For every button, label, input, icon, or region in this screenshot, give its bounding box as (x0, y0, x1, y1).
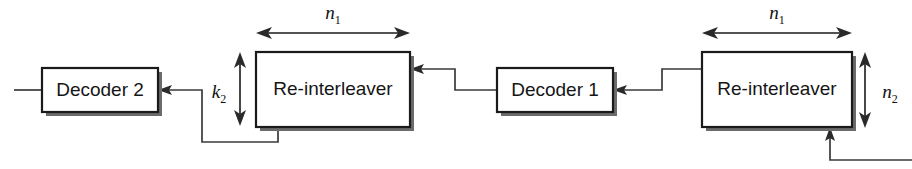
dimension-n1-left: n1 (256, 2, 410, 39)
wire-input-bottom-right (825, 127, 912, 160)
re-interleaver-left-label: Re-interleaver (273, 78, 393, 99)
dimension-label-n2: n2 (882, 81, 898, 106)
decoder-2-label: Decoder 2 (56, 79, 144, 100)
decoder-1-label: Decoder 1 (511, 79, 599, 100)
re-interleaver-right-label: Re-interleaver (717, 78, 837, 99)
block-decoder-1[interactable]: Decoder 1 (497, 68, 617, 116)
dimension-label-n1-right: n1 (769, 2, 785, 27)
dimension-label-n1-left: n1 (325, 2, 341, 27)
diagram-svg: Decoder 2 Re-interleaver Decoder 1 Re-in… (0, 0, 912, 169)
wire-reint-right-to-decoder1 (613, 69, 702, 95)
block-decoder-2[interactable]: Decoder 2 (42, 68, 162, 116)
dimension-label-k2: k2 (212, 81, 226, 106)
block-re-interleaver-left[interactable]: Re-interleaver (256, 52, 414, 131)
wire-decoder1-to-reint-left (410, 64, 497, 90)
dimension-k2: k2 (212, 52, 246, 126)
block-diagram-canvas: Decoder 2 Re-interleaver Decoder 1 Re-in… (0, 0, 912, 169)
dimension-n1-right: n1 (702, 2, 852, 39)
dimension-n2: n2 (859, 52, 898, 128)
block-re-interleaver-right[interactable]: Re-interleaver (702, 52, 856, 131)
